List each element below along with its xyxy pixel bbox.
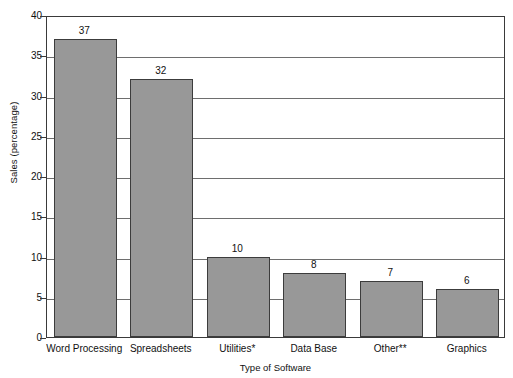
bar-value-label: 37 [54, 26, 114, 36]
bar-value-label: 6 [437, 276, 497, 286]
y-tick-label: 0 [8, 333, 42, 343]
y-tick-label: 5 [8, 293, 42, 303]
y-tick-label: 25 [8, 132, 42, 142]
bar-value-label: 8 [284, 260, 344, 270]
y-tick-label: 30 [8, 92, 42, 102]
bar [207, 257, 270, 338]
y-tick-label: 20 [8, 172, 42, 182]
bar-value-label: 32 [131, 66, 191, 76]
bar [436, 289, 499, 337]
bar [54, 39, 117, 337]
bar-chart-figure: Sales (percentage) 0510152025303540 3732… [0, 0, 513, 378]
bar [360, 281, 423, 337]
x-axis-title: Type of Software [46, 362, 505, 373]
y-tick-label: 35 [8, 51, 42, 61]
plot-area [46, 16, 505, 338]
y-tick-label: 15 [8, 212, 42, 222]
y-tick-mark [40, 338, 46, 339]
x-tick-label: Graphics [407, 343, 513, 354]
bar [130, 79, 193, 337]
bar-value-label: 10 [207, 244, 267, 254]
y-tick-label: 10 [8, 253, 42, 263]
bar-value-label: 7 [360, 268, 420, 278]
y-tick-label: 40 [8, 11, 42, 21]
bar [283, 273, 346, 337]
